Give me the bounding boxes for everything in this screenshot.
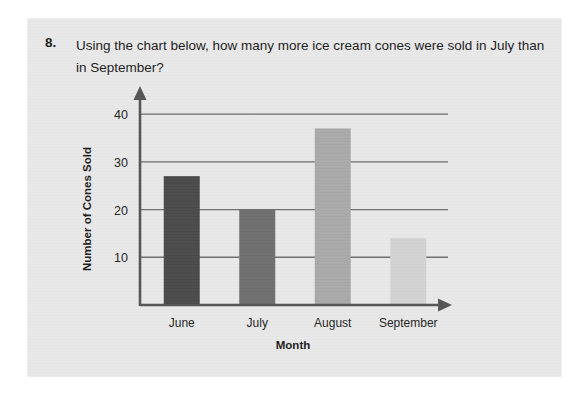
- x-tick-labels: JuneJulyAugustSeptember: [169, 316, 438, 330]
- x-axis-arrow-icon: [438, 299, 452, 312]
- y-axis-title: Number of Cones Sold: [81, 147, 93, 271]
- bar-chart: 10203040 JuneJulyAugustSeptember Number …: [28, 19, 561, 376]
- bar-june: [164, 176, 200, 305]
- bar-august: [315, 128, 351, 305]
- bar-september: [390, 238, 426, 305]
- y-tick-labels: 10203040: [114, 108, 128, 265]
- y-tick-label-10: 10: [114, 251, 128, 265]
- x-tick-label-july: July: [247, 316, 268, 330]
- bar-july: [239, 210, 275, 305]
- y-tick-label-40: 40: [114, 108, 128, 122]
- y-axis-arrow-icon: [134, 86, 147, 100]
- x-tick-label-june: June: [169, 316, 195, 330]
- y-tick-label-30: 30: [114, 156, 128, 170]
- y-tick-label-20: 20: [114, 204, 128, 218]
- x-tick-label-september: September: [379, 316, 438, 330]
- chart-svg: 10203040 JuneJulyAugustSeptember Number …: [28, 19, 561, 376]
- x-tick-label-august: August: [314, 316, 352, 330]
- bars-group: [164, 128, 427, 305]
- x-axis-title: Month: [276, 339, 310, 351]
- worksheet-page: 8. Using the chart below, how many more …: [28, 19, 561, 376]
